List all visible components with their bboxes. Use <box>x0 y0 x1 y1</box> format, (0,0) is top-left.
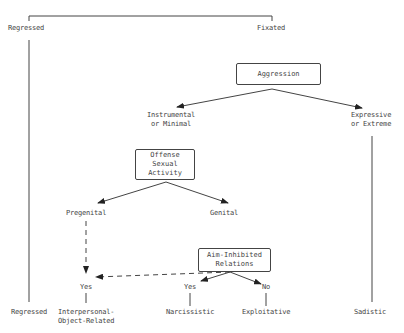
fixated-branch-label: Fixated <box>257 24 285 33</box>
aim-inhibited-relations-box: Aim-Inhibited Relations <box>198 248 271 272</box>
instrumental-line-2: or Minimal <box>140 120 202 129</box>
expressive-line-2: or Extreme <box>351 120 404 129</box>
no-label: No <box>262 283 270 292</box>
aim-inhibited-line-2: Relations <box>216 260 254 269</box>
arrow-to-instrumental <box>177 89 272 107</box>
pregenital-label: Pregenital <box>66 209 106 218</box>
yes-mid-label: Yes <box>184 283 196 292</box>
arrow-to-pregenital <box>98 182 166 203</box>
instrumental-label: Instrumental or Minimal <box>140 111 202 129</box>
connector-lines <box>0 0 404 333</box>
aggression-box: Aggression <box>236 63 321 85</box>
genital-label: Genital <box>210 209 238 218</box>
outcome-exploitative: Exploitative <box>242 308 290 317</box>
arrow-to-yes-mid <box>201 272 230 281</box>
regressed-branch-label: Regressed <box>8 24 44 33</box>
offense-line-1: Offense <box>150 151 180 160</box>
offense-line-3: Activity <box>148 169 182 178</box>
outcome-narcissistic: Narcissistic <box>166 308 214 317</box>
offense-line-2: Sexual <box>152 160 177 169</box>
top-bracket <box>29 16 272 21</box>
yes-left-label: Yes <box>80 283 92 292</box>
interpersonal-line-1: Interpersonal- <box>58 308 114 317</box>
outcome-sadistic: Sadistic <box>354 308 386 317</box>
outcome-regressed: Regressed <box>11 308 47 317</box>
arrow-to-expressive <box>272 89 362 108</box>
instrumental-line-1: Instrumental <box>140 111 202 120</box>
aim-inhibited-line-1: Aim-Inhibited <box>207 251 262 260</box>
arrow-to-genital <box>166 182 228 203</box>
arrow-to-no <box>230 272 261 284</box>
outcome-interpersonal: Interpersonal- Object-Related <box>58 308 114 326</box>
interpersonal-line-2: Object-Related <box>58 317 114 326</box>
offense-sexual-activity-box: Offense Sexual Activity <box>135 149 195 180</box>
aggression-label: Aggression <box>257 70 299 79</box>
expressive-label: Expressive or Extreme <box>351 111 404 129</box>
dashed-aim-to-yes <box>96 272 230 277</box>
expressive-line-1: Expressive <box>351 111 404 120</box>
